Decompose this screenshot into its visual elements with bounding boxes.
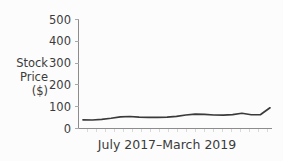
x-axis-label: July 2017–March 2019 (97, 137, 236, 152)
y-tick-label-100: 100 (49, 100, 71, 114)
y-tick-label-500: 500 (49, 13, 71, 27)
x-axis-ticks (88, 129, 268, 132)
y-tick-label-0: 0 (64, 122, 71, 136)
y-axis-title-line-3: ($) (32, 84, 48, 98)
y-axis-title-line-1: Stock (16, 56, 48, 70)
y-axis-ticks (75, 20, 79, 129)
y-tick-label-400: 400 (49, 34, 71, 48)
stock-price-series-line (83, 108, 270, 120)
y-tick-label-300: 300 (49, 56, 71, 70)
chart-screenshot: 500 400 300 200 100 0 Stock Price ($) Ju… (0, 0, 283, 161)
chart-canvas: 500 400 300 200 100 0 Stock Price ($) Ju… (0, 0, 283, 161)
y-axis-title: Stock Price ($) (16, 56, 48, 98)
y-tick-label-200: 200 (49, 78, 71, 92)
stock-price-line-chart: 500 400 300 200 100 0 Stock Price ($) Ju… (0, 0, 283, 161)
y-axis-title-line-2: Price (20, 70, 48, 84)
